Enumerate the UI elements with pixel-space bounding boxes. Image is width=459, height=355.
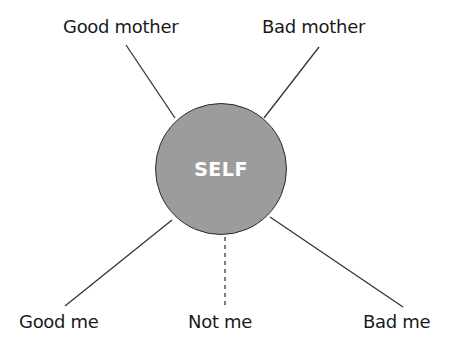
connector-bad-mother [264, 47, 319, 118]
self-circle: SELF [155, 103, 287, 235]
self-diagram: SELF Good mother Bad mother Good me Not … [0, 0, 459, 355]
self-label: SELF [194, 158, 248, 180]
label-good-me: Good me [19, 312, 99, 332]
connector-good-me [65, 220, 172, 306]
label-good-mother: Good mother [63, 17, 178, 37]
label-bad-me: Bad me [363, 312, 430, 332]
label-bad-mother: Bad mother [262, 17, 365, 37]
label-not-me: Not me [188, 312, 252, 332]
connector-bad-me [270, 217, 403, 307]
connector-good-mother [126, 45, 175, 118]
